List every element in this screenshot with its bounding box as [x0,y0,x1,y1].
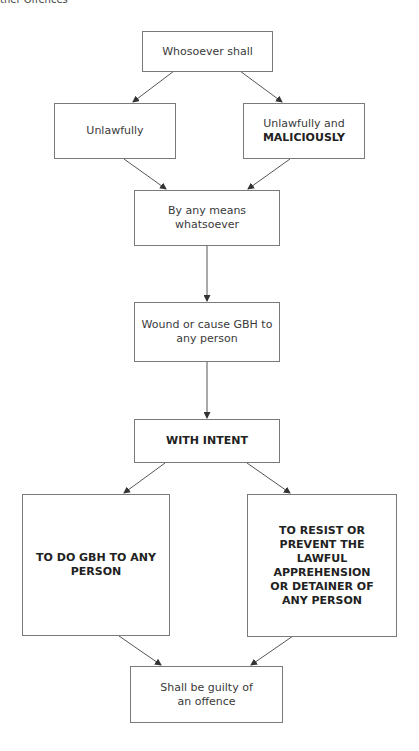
arrow [247,463,290,493]
node-with-intent: WITH INTENT [134,419,280,463]
node-to-resist: TO RESIST OR PREVENT THE LAWFUL APPREHEN… [247,494,397,637]
node-label: By any means whatsoever [157,204,257,232]
node-label: Whosoever shall [162,45,253,59]
arrow [248,159,290,189]
arrow [251,636,293,665]
node-label: Unlawfully and [263,117,344,131]
arrow [124,159,166,189]
arrow [124,463,165,493]
node-label: TO DO GBH TO ANY PERSON [33,551,159,579]
arrow [133,71,174,102]
node-label: Unlawfully [86,124,143,138]
node-whosoever: Whosoever shall [142,31,273,72]
node-label: TO RESIST OR PREVENT THE LAWFUL APPREHEN… [264,524,380,608]
node-label: Wound or cause GBH to any person [141,318,273,346]
node-unlawfully: Unlawfully [54,103,176,159]
arrow [240,71,282,102]
node-label-bold: MALICIOUSLY [263,131,345,145]
node-to-do-gbh: TO DO GBH TO ANY PERSON [22,494,170,636]
node-wound: Wound or cause GBH to any person [134,302,280,362]
arrow [119,636,161,665]
node-label: WITH INTENT [166,434,248,448]
node-label: Shall be guilty of an offence [153,681,260,709]
node-unlawfully-maliciously: Unlawfully and MALICIOUSLY [243,103,365,159]
node-by-any-means: By any means whatsoever [134,190,280,246]
node-guilty: Shall be guilty of an offence [130,666,283,723]
